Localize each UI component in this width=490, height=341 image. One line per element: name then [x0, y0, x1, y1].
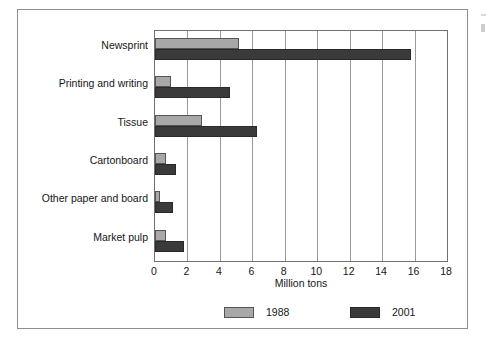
bar-chart: NewsprintPrinting and writingTissueCarto…: [18, 10, 469, 328]
category-label: Cartonboard: [90, 154, 148, 167]
chart-row: Printing and writing: [155, 69, 447, 107]
chart-legend: 1988 2001: [154, 306, 448, 324]
category-label: Printing and writing: [59, 77, 148, 90]
bar-2001: [155, 241, 184, 252]
legend-swatch-1988: [224, 307, 254, 318]
bar-2001: [155, 49, 411, 60]
scanned-page: NewsprintPrinting and writingTissueCarto…: [0, 0, 490, 341]
x-tick-label-12: 12: [343, 265, 355, 277]
bar-1988: [155, 230, 166, 241]
x-tick-label-18: 18: [440, 265, 452, 277]
plot-area: NewsprintPrinting and writingTissueCarto…: [154, 30, 448, 262]
chart-row: Market pulp: [155, 223, 447, 261]
bar-2001: [155, 164, 176, 175]
category-label: Newsprint: [101, 39, 148, 52]
bar-2001: [155, 126, 257, 137]
bar-1988: [155, 38, 239, 49]
x-tick-label-2: 2: [184, 265, 190, 277]
x-tick-label-6: 6: [248, 265, 254, 277]
x-tick-label-14: 14: [375, 265, 387, 277]
chart-row: Cartonboard: [155, 146, 447, 184]
bar-1988: [155, 191, 160, 202]
scan-artifact-bottom: [481, 24, 485, 32]
x-axis-ticks: 024681012141618: [154, 262, 448, 278]
x-tick-label-16: 16: [408, 265, 420, 277]
legend-item-1988: 1988: [224, 306, 289, 318]
legend-swatch-2001: [350, 307, 380, 318]
chart-row: Newsprint: [155, 31, 447, 69]
category-label: Market pulp: [93, 231, 148, 244]
x-tick-label-8: 8: [281, 265, 287, 277]
legend-item-2001: 2001: [350, 306, 415, 318]
bar-1988: [155, 153, 166, 164]
chart-row: Tissue: [155, 108, 447, 146]
bar-1988: [155, 76, 171, 87]
figure-frame: NewsprintPrinting and writingTissueCarto…: [17, 9, 468, 329]
x-tick-label-10: 10: [310, 265, 322, 277]
legend-label-2001: 2001: [392, 306, 415, 318]
x-tick-label-4: 4: [216, 265, 222, 277]
x-tick-label-0: 0: [151, 265, 157, 277]
category-label: Tissue: [117, 116, 148, 129]
bar-2001: [155, 202, 173, 213]
category-label: Other paper and board: [42, 192, 148, 205]
legend-label-1988: 1988: [266, 306, 289, 318]
bar-2001: [155, 87, 230, 98]
x-axis-label: Million tons: [154, 277, 448, 289]
chart-row: Other paper and board: [155, 184, 447, 222]
bar-1988: [155, 115, 202, 126]
scan-artifact-top: [481, 14, 486, 16]
